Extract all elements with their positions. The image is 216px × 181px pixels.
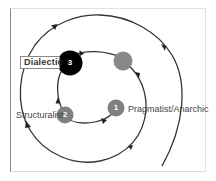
node-1-number: 1 [109,103,123,113]
node-unlabeled [114,52,133,71]
arrowheads [25,22,166,150]
structuralist-label: Structuralist [16,110,64,120]
arrow-icon [51,22,59,30]
dialectic-label: Dialectic [20,56,60,69]
arrow-icon [25,121,31,128]
spiral-path [20,15,182,166]
spiral-diagram [0,0,216,181]
pragmatist-anarchic-label: Pragmatist/Anarchic [128,104,209,114]
node-3-number: 3 [63,58,77,68]
